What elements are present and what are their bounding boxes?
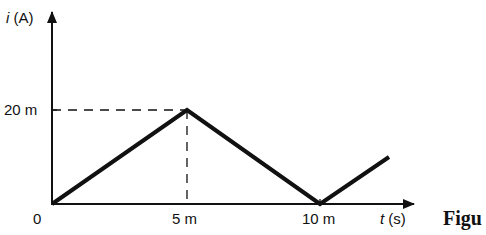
- tick-label-20m: 20 m: [4, 101, 37, 118]
- x-axis-variable: t: [380, 210, 384, 227]
- y-axis-label: i (A): [6, 9, 34, 26]
- figure-caption: Figu: [443, 207, 482, 230]
- current-waveform-plot: [0, 0, 486, 235]
- x-axis-label: t (s): [380, 210, 406, 227]
- y-axis-variable: i: [6, 9, 9, 26]
- tick-label-5m: 5 m: [172, 210, 197, 227]
- tick-label-origin: 0: [33, 210, 41, 227]
- y-axis-unit: (A): [14, 9, 34, 26]
- tick-label-10m: 10 m: [302, 210, 335, 227]
- current-line: [52, 110, 389, 204]
- x-axis-unit: (s): [388, 210, 406, 227]
